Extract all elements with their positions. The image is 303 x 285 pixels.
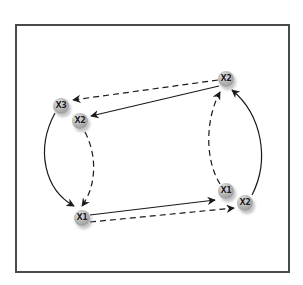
edges-layer (0, 0, 303, 285)
node-x1-bottom-left: X1 (74, 210, 90, 226)
node-label: X2 (74, 117, 85, 125)
edge-x2top-to-x3-dashed (73, 80, 218, 100)
node-x2-left: X2 (72, 113, 88, 129)
node-x1-right: X1 (218, 183, 234, 199)
node-label: X3 (55, 102, 66, 110)
node-x2-bottom-right: X2 (237, 195, 253, 211)
node-label: X2 (239, 199, 250, 207)
node-x2-top-right: X2 (218, 71, 234, 87)
edge-x3-to-x1-solid (45, 113, 74, 206)
edge-x2top-to-x2left-solid (91, 86, 219, 116)
edge-x1right-to-x2top-dashed (209, 92, 220, 184)
edge-x1-to-x2right-dashed (90, 208, 234, 222)
node-label: X1 (76, 214, 87, 222)
node-label: X1 (220, 187, 231, 195)
edge-x1-to-x1right-solid (90, 200, 215, 215)
node-x3-left: X3 (53, 98, 69, 114)
diagram-canvas: X3 X2 X1 X2 X1 X2 (0, 0, 303, 285)
edge-x2right-to-x2top-solid (232, 90, 262, 195)
node-label: X2 (220, 75, 231, 83)
edge-x2left-to-x1-dashed (82, 132, 94, 206)
